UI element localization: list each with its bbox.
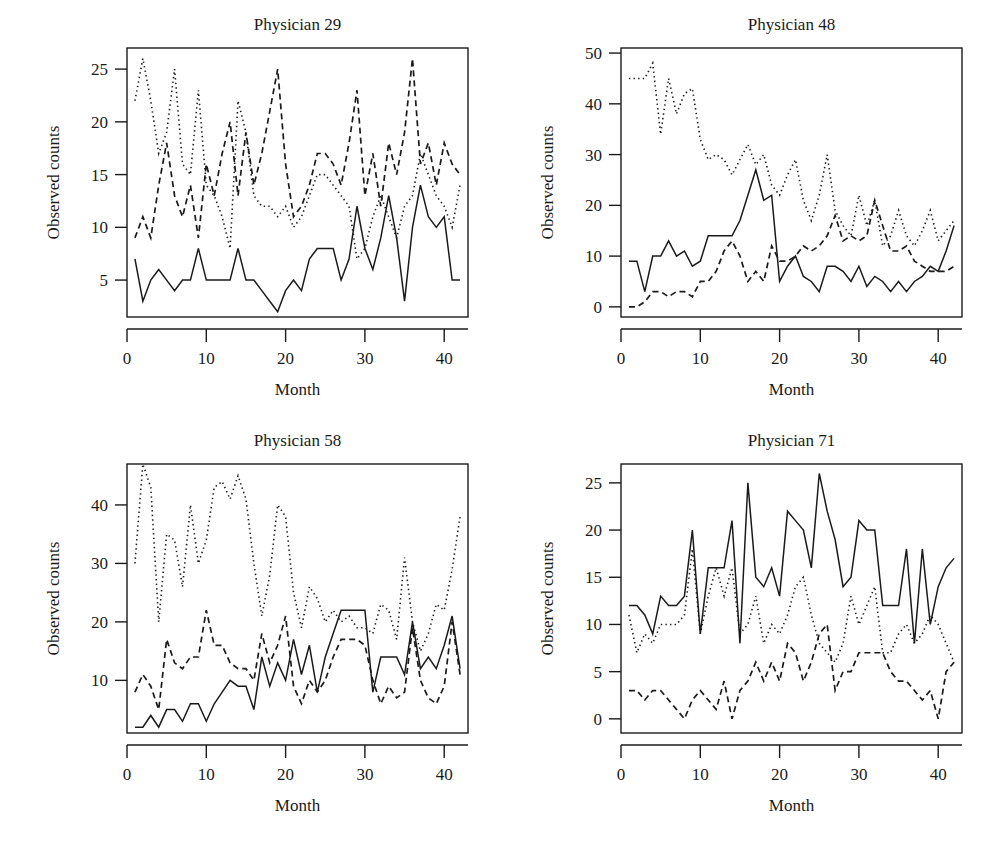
x-axis-label: Month <box>769 796 815 815</box>
chart-panel-physician-48: Physician 4801020304050010203040MonthObs… <box>494 0 987 420</box>
y-axis-label: Observed counts <box>538 542 557 656</box>
chart-panel-physician-58: Physician 5810203040010203040MonthObserv… <box>0 416 493 836</box>
x-axis-label: Month <box>275 380 321 399</box>
x-axis-label: Month <box>769 380 815 399</box>
panel-svg: Physician 5810203040010203040MonthObserv… <box>0 416 493 836</box>
series-line-dotted <box>629 549 954 662</box>
x-tick-label: 10 <box>692 349 709 368</box>
x-tick-label: 20 <box>771 349 788 368</box>
series-line-dotted <box>135 59 460 259</box>
x-tick-label: 30 <box>356 349 373 368</box>
panel-title: Physician 29 <box>254 15 341 34</box>
y-tick-label: 5 <box>100 271 109 290</box>
panel-svg: Physician 29510152025010203040MonthObser… <box>0 0 493 420</box>
x-tick-label: 40 <box>930 349 947 368</box>
panel-svg: Physician 710510152025010203040MonthObse… <box>494 416 987 836</box>
x-tick-label: 10 <box>198 349 215 368</box>
series-line-solid <box>629 170 954 292</box>
y-tick-label: 10 <box>585 615 602 634</box>
y-tick-label: 20 <box>91 613 108 632</box>
y-axis-label: Observed counts <box>538 126 557 240</box>
chart-panel-physician-71: Physician 710510152025010203040MonthObse… <box>494 416 987 836</box>
x-tick-label: 0 <box>617 349 626 368</box>
y-tick-label: 20 <box>585 521 602 540</box>
y-tick-label: 5 <box>594 663 603 682</box>
y-tick-label: 10 <box>91 671 108 690</box>
x-tick-label: 0 <box>123 349 132 368</box>
y-tick-label: 20 <box>585 196 602 215</box>
y-tick-label: 25 <box>585 474 602 493</box>
x-tick-label: 20 <box>277 765 294 784</box>
series-group <box>135 464 460 727</box>
y-tick-label: 25 <box>91 60 108 79</box>
y-tick-label: 15 <box>91 166 108 185</box>
y-tick-label: 0 <box>594 298 603 317</box>
y-tick-label: 0 <box>594 710 603 729</box>
y-tick-label: 40 <box>91 496 108 515</box>
chart-panel-physician-29: Physician 29510152025010203040MonthObser… <box>0 0 493 420</box>
series-line-solid <box>135 610 460 727</box>
x-tick-label: 10 <box>692 765 709 784</box>
series-line-dashed <box>135 59 460 238</box>
series-line-solid <box>629 473 954 643</box>
panel-svg: Physician 4801020304050010203040MonthObs… <box>494 0 987 420</box>
x-tick-label: 30 <box>850 765 867 784</box>
y-tick-label: 20 <box>91 113 108 132</box>
y-axis-label: Observed counts <box>44 542 63 656</box>
x-tick-label: 40 <box>436 349 453 368</box>
series-line-dotted <box>629 63 954 246</box>
series-group <box>135 59 460 312</box>
plot-frame <box>127 464 468 733</box>
x-tick-label: 30 <box>850 349 867 368</box>
y-tick-label: 50 <box>585 44 602 63</box>
plot-frame <box>621 48 962 317</box>
plot-frame <box>127 48 468 317</box>
y-tick-label: 15 <box>585 568 602 587</box>
y-tick-label: 10 <box>585 247 602 266</box>
panel-title: Physician 71 <box>748 431 835 450</box>
x-axis-label: Month <box>275 796 321 815</box>
x-tick-label: 0 <box>617 765 626 784</box>
series-line-solid <box>135 185 460 312</box>
x-tick-label: 10 <box>198 765 215 784</box>
y-tick-label: 30 <box>585 146 602 165</box>
x-tick-label: 30 <box>356 765 373 784</box>
series-group <box>629 473 954 718</box>
series-line-dotted <box>135 464 460 651</box>
y-axis-label: Observed counts <box>44 126 63 240</box>
x-tick-label: 40 <box>436 765 453 784</box>
y-tick-label: 30 <box>91 554 108 573</box>
y-tick-label: 10 <box>91 218 108 237</box>
multi-panel-line-chart-figure: Physician 29510152025010203040MonthObser… <box>0 0 987 841</box>
y-tick-label: 40 <box>585 95 602 114</box>
x-tick-label: 0 <box>123 765 132 784</box>
x-tick-label: 20 <box>277 349 294 368</box>
x-tick-label: 20 <box>771 765 788 784</box>
series-group <box>629 63 954 307</box>
series-line-dashed <box>629 624 954 718</box>
x-tick-label: 40 <box>930 765 947 784</box>
panel-title: Physician 48 <box>748 15 835 34</box>
panel-title: Physician 58 <box>254 431 341 450</box>
